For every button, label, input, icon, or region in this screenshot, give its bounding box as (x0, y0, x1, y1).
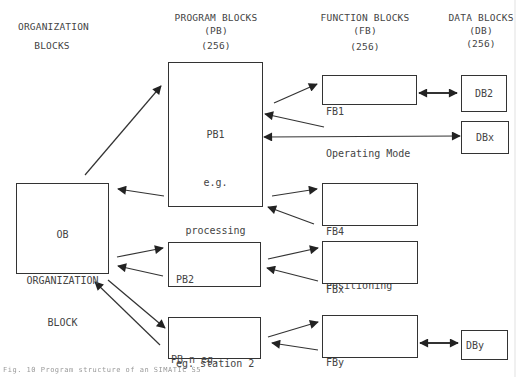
arrow-pb1-to-fb1 (274, 84, 317, 103)
pb2-line1: PB2 (176, 273, 254, 287)
arrow-ob-to-pb2 (117, 248, 163, 257)
arrow-fby-to-pbn (272, 343, 318, 350)
arrow-pb2-to-fbx (268, 248, 318, 259)
dby-block[interactable]: DBy (461, 330, 508, 360)
arrow-fb4-to-pb1 (268, 207, 314, 224)
fbx-line1: FBx (326, 281, 404, 299)
pb2-block[interactable]: PB2 processing eg. station 2 (168, 242, 261, 287)
ob-line2: ORGANIZATION (17, 274, 108, 288)
arrow-fbx-to-pb2 (267, 268, 318, 281)
pb1-line1: PB1 (169, 127, 262, 143)
figure-caption: Fig. 10 Program structure of an SIMATIC … (3, 366, 201, 374)
fby-line1: FBy (326, 354, 368, 372)
dby-label: DBy (466, 339, 484, 353)
arrow-pbn-to-fby (268, 322, 318, 337)
page-edge-shadow (514, 0, 516, 377)
arrow-pb1-to-ob (118, 189, 164, 196)
fb1-block[interactable]: FB1 Operating Mode (322, 75, 417, 105)
db2-label: DB2 (462, 87, 506, 101)
arrow-ob-to-pbn (108, 280, 165, 328)
fb4-line1: FB4 (326, 223, 392, 241)
db2-block[interactable]: DB2 (461, 75, 507, 112)
arrow-ob-to-pb1 (85, 86, 161, 175)
dbx-block[interactable]: DBx (461, 121, 509, 154)
pbn-block[interactable]: PB n eg. Transport (168, 317, 261, 359)
ob-line3: BLOCK (17, 316, 108, 330)
arrow-fb1-to-pb1 (265, 114, 324, 127)
pb1-line2: e.g. (169, 175, 262, 191)
fb1-line2: Operating Mode (326, 147, 410, 161)
dbx-label: DBx (462, 131, 508, 145)
fb1-line1: FB1 (326, 105, 410, 119)
pb1-line3: processing (169, 223, 262, 239)
arrow-pb2-to-ob (118, 266, 163, 276)
arrow-pb1-to-fb4 (272, 189, 317, 196)
fby-block[interactable]: FBy Message (322, 315, 418, 358)
fbx-block[interactable]: FBx Motor Control (322, 241, 418, 284)
ob-organization-block[interactable]: OB ORGANIZATION BLOCK (16, 183, 109, 274)
ob-line1: OB (17, 228, 108, 242)
fb4-block[interactable]: FB4 Positioning (322, 183, 418, 226)
pbn-line1: PB n eg. (171, 352, 225, 367)
pb1-block[interactable]: PB1 e.g. processing station 1 (168, 62, 263, 207)
